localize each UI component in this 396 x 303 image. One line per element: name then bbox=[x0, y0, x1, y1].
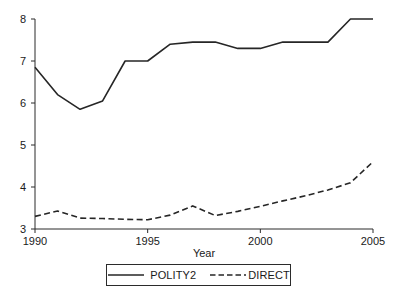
legend-label-direct: DIRECT bbox=[248, 269, 290, 281]
x-tick-label: 1990 bbox=[23, 235, 47, 247]
x-axis-title: Year bbox=[193, 247, 216, 259]
legend-swatch-dashed bbox=[209, 270, 247, 280]
legend-swatch-solid bbox=[107, 270, 145, 280]
x-tick-label: 1995 bbox=[135, 235, 159, 247]
y-tick-label: 5 bbox=[20, 139, 26, 151]
legend-item-polity2: POLITY2 bbox=[107, 269, 196, 281]
y-tick-label: 8 bbox=[20, 13, 26, 25]
legend-item-direct: DIRECT bbox=[209, 269, 290, 281]
legend-label-polity2: POLITY2 bbox=[150, 269, 196, 281]
y-tick-label: 3 bbox=[20, 223, 26, 235]
y-tick-label: 4 bbox=[20, 181, 26, 193]
line-chart: 345678 1990199520002005 Year POLITY2 DIR… bbox=[0, 0, 396, 303]
x-tick-label: 2000 bbox=[248, 235, 272, 247]
series-line-direct bbox=[35, 162, 373, 220]
series-line-polity2 bbox=[35, 19, 373, 109]
x-tick-label: 2005 bbox=[361, 235, 385, 247]
y-axis-tick-group: 345678 bbox=[20, 13, 35, 235]
y-tick-label: 6 bbox=[20, 97, 26, 109]
chart-legend: POLITY2 DIRECT bbox=[106, 264, 291, 286]
x-axis-tick-group: 1990199520002005 bbox=[23, 229, 385, 247]
y-tick-label: 7 bbox=[20, 55, 26, 67]
chart-canvas: 345678 1990199520002005 Year bbox=[0, 0, 396, 303]
